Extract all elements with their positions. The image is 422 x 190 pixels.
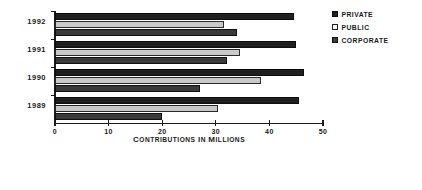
bar-private-1992 (55, 13, 294, 20)
bar-corporate-1992 (55, 29, 237, 36)
y-axis-label: 1989 (27, 101, 46, 110)
bar-corporate-1989 (55, 113, 162, 120)
bar-corporate-1991 (55, 57, 227, 64)
x-axis-title: CONTRIBUTIONS IN MILLIONS (55, 135, 323, 144)
y-axis-label: 1991 (27, 45, 46, 54)
bar-private-1991 (55, 41, 296, 48)
legend-item-private[interactable]: PRIVATE (332, 9, 418, 19)
plot-area: 01020304050 1992199119901989 (55, 11, 323, 123)
legend-swatch-corporate-icon (332, 37, 338, 43)
bar-group-1989: 1989 (55, 95, 323, 123)
chart-legend: PRIVATEPUBLICCORPORATE (332, 9, 418, 48)
legend-swatch-public-icon (332, 24, 338, 30)
x-tick-label: 30 (212, 128, 221, 135)
x-tick-label: 0 (53, 128, 57, 135)
y-axis-label: 1992 (27, 17, 46, 26)
x-axis-line (54, 123, 324, 124)
x-tick-label: 40 (265, 128, 274, 135)
bar-corporate-1990 (55, 85, 200, 92)
bar-group-1991: 1991 (55, 39, 323, 67)
legend-label: PRIVATE (342, 11, 374, 18)
bar-group-1990: 1990 (55, 67, 323, 95)
x-tick-label: 20 (158, 128, 167, 135)
x-tick-label: 10 (104, 128, 113, 135)
legend-swatch-private-icon (332, 11, 338, 17)
legend-label: PUBLIC (342, 24, 370, 31)
chart-title (42, 0, 282, 5)
bar-private-1990 (55, 69, 304, 76)
bar-public-1989 (55, 105, 218, 112)
bar-public-1991 (55, 49, 240, 56)
legend-label: CORPORATE (342, 37, 389, 44)
y-axis-label: 1990 (27, 73, 46, 82)
legend-item-corporate[interactable]: CORPORATE (332, 35, 418, 45)
legend-item-public[interactable]: PUBLIC (332, 22, 418, 32)
bar-group-1992: 1992 (55, 11, 323, 39)
x-tick-label: 50 (319, 128, 328, 135)
bar-private-1989 (55, 97, 299, 104)
bar-public-1990 (55, 77, 261, 84)
bar-public-1992 (55, 21, 224, 28)
chart-figure: 01020304050 1992199119901989 CONTRIBUTIO… (0, 0, 422, 190)
